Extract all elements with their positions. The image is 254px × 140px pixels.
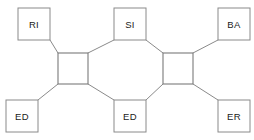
- node-ba-label: BA: [227, 19, 241, 30]
- diagram-canvas: RI SI BA ED ED ER: [0, 0, 254, 140]
- node-si[interactable]: SI: [114, 8, 146, 40]
- node-ba[interactable]: BA: [218, 8, 250, 40]
- edge-ba-to-hub-right: [193, 40, 218, 53]
- edge-hub-left-to-si: [88, 40, 114, 53]
- node-ri[interactable]: RI: [18, 8, 50, 40]
- node-ed-center[interactable]: ED: [114, 100, 146, 132]
- hub-node-right[interactable]: [163, 53, 193, 84]
- edge-ed-center-to-hub-right: [146, 84, 163, 100]
- node-ri-label: RI: [29, 19, 39, 30]
- node-group: RI SI BA ED ED ER: [6, 8, 250, 132]
- node-ed-left[interactable]: ED: [6, 100, 38, 132]
- node-er[interactable]: ER: [218, 100, 250, 132]
- edge-er-to-hub-right: [193, 84, 218, 100]
- node-si-label: SI: [125, 19, 135, 30]
- node-ed-left-label: ED: [15, 111, 29, 122]
- edge-ed-left-to-hub-left: [38, 84, 58, 100]
- node-er-label: ER: [227, 111, 241, 122]
- edge-si-to-hub-right: [146, 40, 163, 53]
- edge-ri-to-hub-left: [50, 40, 58, 53]
- hub-group: [58, 53, 193, 84]
- hub-node-left[interactable]: [58, 53, 88, 84]
- edge-hub-left-to-ed-center: [88, 84, 114, 100]
- node-ed-center-label: ED: [123, 111, 137, 122]
- octagon-node-link-diagram: RI SI BA ED ED ER: [0, 0, 254, 140]
